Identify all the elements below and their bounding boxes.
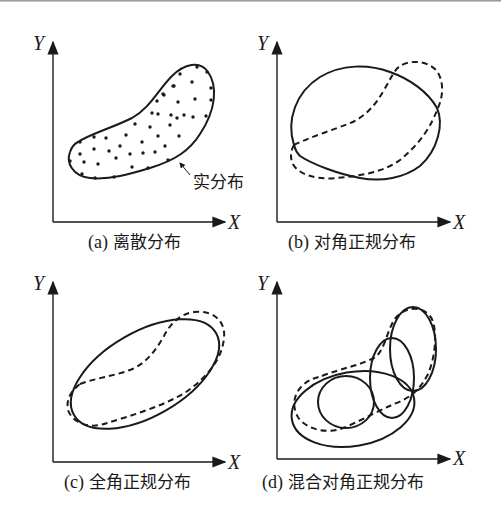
- panel-tag: (b): [288, 232, 309, 252]
- x-axis-label: X: [453, 448, 465, 468]
- panel-tag: (d): [262, 472, 283, 492]
- mixture-component-3: [370, 338, 414, 418]
- panel-tag: (c): [64, 472, 84, 492]
- caption-text: 混合对角正规分布: [288, 472, 424, 492]
- caption-text: 对角正规分布: [314, 232, 416, 252]
- real-distribution-dashed: [291, 62, 442, 178]
- real-distribution-dashed: [68, 312, 225, 426]
- x-axis-label: X: [228, 452, 240, 472]
- y-axis-label: Y: [33, 273, 44, 293]
- model-distribution-solid: [53, 297, 237, 452]
- annotation-arrow: [180, 163, 190, 175]
- panel-c-caption: (c) 全角正规分布: [64, 472, 191, 492]
- real-distribution-label: 实分布: [193, 172, 244, 192]
- x-axis-label: X: [453, 212, 465, 232]
- caption-text: 全角正规分布: [89, 472, 191, 492]
- caption-text: 离散分布: [113, 232, 181, 252]
- model-distribution-solid: [291, 67, 440, 180]
- panel-b: Y X (b) 对角正规分布: [250, 0, 500, 263]
- x-axis-label: X: [228, 212, 240, 232]
- y-axis-label: Y: [33, 33, 44, 53]
- mixture-component-2: [318, 376, 374, 428]
- panel-b-caption: (b) 对角正规分布: [288, 232, 416, 252]
- panel-c: Y X (c) 全角正规分布: [0, 264, 250, 527]
- panel-d-caption: (d) 混合对角正规分布: [262, 472, 424, 492]
- panel-d: Y X (d) 混合对角正规分布: [250, 264, 500, 527]
- panel-a: Y X 实分布 (a) 离散分布: [0, 0, 250, 263]
- y-axis-label: Y: [257, 273, 268, 293]
- sample-points: [68, 65, 212, 179]
- panel-tag: (a): [88, 232, 108, 252]
- y-axis-label: Y: [257, 33, 268, 53]
- panel-a-caption: (a) 离散分布: [88, 232, 181, 252]
